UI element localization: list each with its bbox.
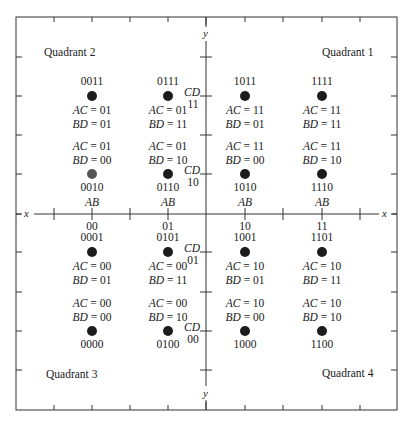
signal-point-1010 bbox=[240, 169, 250, 179]
ab-label: AB bbox=[238, 196, 252, 208]
point-ac-1010: AC = 11 bbox=[226, 140, 264, 152]
y-axis-label-bottom: y bbox=[203, 388, 208, 399]
point-code-0011: 0011 bbox=[81, 75, 104, 87]
point-ac-1101: AC = 10 bbox=[303, 260, 341, 272]
point-bd-1011: BD = 01 bbox=[225, 118, 264, 130]
point-bd-0100: BD = 10 bbox=[148, 311, 187, 323]
point-ac-0001: AC = 00 bbox=[73, 260, 111, 272]
point-code-1110: 1110 bbox=[311, 181, 333, 193]
point-ac-0110: AC = 01 bbox=[149, 140, 187, 152]
x-axis-label-left: x bbox=[24, 208, 29, 219]
cd-value: 10 bbox=[187, 176, 199, 188]
cd-value: 01 bbox=[187, 254, 199, 266]
point-ac-1011: AC = 11 bbox=[226, 104, 264, 116]
point-ac-1110: AC = 11 bbox=[303, 140, 341, 152]
ab-label: AB bbox=[85, 196, 99, 208]
signal-point-1011 bbox=[240, 91, 250, 101]
point-bd-1000: BD = 00 bbox=[225, 311, 264, 323]
point-code-0111: 0111 bbox=[157, 75, 179, 87]
signal-point-0000 bbox=[87, 326, 97, 336]
cd-label: CD bbox=[184, 86, 200, 98]
point-bd-1100: BD = 10 bbox=[302, 311, 341, 323]
point-ac-1001: AC = 10 bbox=[226, 260, 264, 272]
point-code-0001: 0001 bbox=[81, 231, 104, 243]
point-code-1000: 1000 bbox=[234, 338, 257, 350]
point-code-0010: 0010 bbox=[81, 181, 104, 193]
point-code-1100: 1100 bbox=[311, 338, 334, 350]
cd-label: CD bbox=[184, 242, 200, 254]
point-bd-1110: BD = 10 bbox=[302, 154, 341, 166]
ab-label: AB bbox=[161, 196, 175, 208]
point-code-1101: 1101 bbox=[311, 231, 334, 243]
ab-label: AB bbox=[315, 196, 329, 208]
point-ac-0111: AC = 01 bbox=[149, 104, 187, 116]
signal-point-0111 bbox=[163, 91, 173, 101]
signal-point-1100 bbox=[317, 326, 327, 336]
point-bd-0011: BD = 01 bbox=[72, 118, 111, 130]
signal-point-1001 bbox=[240, 247, 250, 257]
signal-point-0001 bbox=[87, 247, 97, 257]
signal-point-0110 bbox=[163, 169, 173, 179]
point-code-1011: 1011 bbox=[234, 75, 257, 87]
x-axis-label-right: x bbox=[382, 208, 387, 219]
point-bd-0111: BD = 11 bbox=[149, 118, 188, 130]
point-code-0101: 0101 bbox=[157, 231, 180, 243]
point-ac-0010: AC = 01 bbox=[73, 140, 111, 152]
signal-point-1111 bbox=[317, 91, 327, 101]
signal-point-0010 bbox=[87, 169, 97, 179]
point-ac-1000: AC = 10 bbox=[226, 297, 264, 309]
point-bd-0101: BD = 11 bbox=[149, 274, 188, 286]
point-ac-0011: AC = 01 bbox=[73, 104, 111, 116]
point-code-0110: 0110 bbox=[157, 181, 180, 193]
signal-point-1101 bbox=[317, 247, 327, 257]
quadrant-label-q2: Quadrant 2 bbox=[44, 46, 95, 58]
quadrant-label-q3: Quadrant 3 bbox=[46, 368, 97, 380]
point-ac-0101: AC = 00 bbox=[149, 260, 187, 272]
y-axis-label-top: y bbox=[203, 28, 208, 39]
point-bd-1001: BD = 01 bbox=[225, 274, 264, 286]
signal-point-1000 bbox=[240, 326, 250, 336]
point-bd-0010: BD = 00 bbox=[72, 154, 111, 166]
signal-point-0100 bbox=[163, 326, 173, 336]
signal-point-0101 bbox=[163, 247, 173, 257]
point-code-0100: 0100 bbox=[157, 338, 180, 350]
point-ac-1100: AC = 10 bbox=[303, 297, 341, 309]
point-bd-0001: BD = 01 bbox=[72, 274, 111, 286]
point-code-0000: 0000 bbox=[81, 338, 104, 350]
point-code-1010: 1010 bbox=[234, 181, 257, 193]
quadrant-label-q1: Quadrant 1 bbox=[322, 46, 373, 58]
point-ac-0100: AC = 00 bbox=[149, 297, 187, 309]
signal-point-0011 bbox=[87, 91, 97, 101]
point-bd-0000: BD = 00 bbox=[72, 311, 111, 323]
quadrant-label-q4: Quadrant 4 bbox=[322, 367, 373, 379]
point-bd-0110: BD = 10 bbox=[148, 154, 187, 166]
point-bd-1101: BD = 11 bbox=[303, 274, 342, 286]
point-bd-1111: BD = 11 bbox=[303, 118, 342, 130]
point-bd-1010: BD = 00 bbox=[225, 154, 264, 166]
point-code-1001: 1001 bbox=[234, 231, 257, 243]
point-code-1111: 1111 bbox=[311, 75, 333, 87]
point-ac-1111: AC = 11 bbox=[303, 104, 341, 116]
signal-point-1110 bbox=[317, 169, 327, 179]
cd-value: 11 bbox=[187, 98, 198, 110]
diagram-frame-and-axes bbox=[0, 0, 411, 427]
point-ac-0000: AC = 00 bbox=[73, 297, 111, 309]
constellation-diagram: xxyyQuadrant 1Quadrant 2Quadrant 3Quadra… bbox=[0, 0, 411, 427]
cd-value: 00 bbox=[187, 333, 199, 345]
